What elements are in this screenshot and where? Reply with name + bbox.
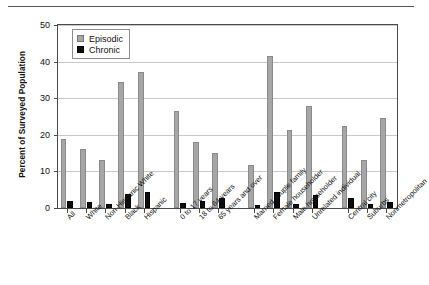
bar-episodic bbox=[267, 56, 273, 208]
x-axis-category-labels: AllWhiteNon-Hispanic WhiteBlackHispanic0… bbox=[0, 213, 421, 285]
bar-episodic bbox=[80, 149, 86, 208]
legend-item-episodic: Episodic bbox=[77, 33, 123, 44]
legend-label-chronic: Chronic bbox=[89, 45, 120, 55]
y-axis-tick-label: 20 bbox=[24, 130, 50, 140]
bar-episodic bbox=[61, 139, 67, 208]
y-axis-tick-label: 10 bbox=[24, 166, 50, 176]
bar-episodic bbox=[306, 106, 312, 208]
chart-legend: Episodic Chronic bbox=[72, 29, 130, 59]
bar-episodic bbox=[99, 160, 105, 208]
bar-episodic bbox=[380, 118, 386, 208]
legend-swatch-chronic-icon bbox=[77, 46, 84, 53]
legend-swatch-episodic-icon bbox=[77, 35, 84, 42]
y-axis-tick-label: 40 bbox=[24, 57, 50, 67]
y-axis-tick-labels: 01020304050 bbox=[22, 24, 50, 209]
legend-label-episodic: Episodic bbox=[89, 34, 123, 44]
y-axis-tick-label: 50 bbox=[24, 20, 50, 30]
bar-chronic bbox=[67, 201, 73, 208]
y-axis-tick-label: 30 bbox=[24, 93, 50, 103]
top-divider bbox=[8, 6, 414, 7]
bar-episodic bbox=[118, 82, 124, 208]
bar-episodic bbox=[174, 111, 180, 208]
y-axis-tick-label: 0 bbox=[24, 203, 50, 213]
legend-item-chronic: Chronic bbox=[77, 44, 123, 55]
bar-episodic bbox=[342, 126, 348, 208]
